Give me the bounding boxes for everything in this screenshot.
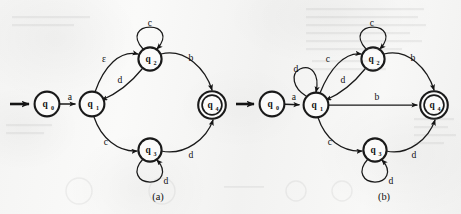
edge-label-b-q2-q1: d xyxy=(341,74,346,85)
edge-label-b-q3-self: d xyxy=(389,175,394,186)
edge-label-b-q1-q2: c xyxy=(326,53,330,64)
state-sub-b-q0: 0 xyxy=(276,105,279,111)
edge-label-b-q3-q4: d xyxy=(412,149,417,160)
state-label-b-q1: q xyxy=(311,100,317,110)
edge-label-b-q0-q1: a xyxy=(292,91,297,102)
edge-label-b-q1-self: d xyxy=(294,63,299,74)
state-label-b-q2: q xyxy=(368,54,374,64)
automata-figure: q 0 q 1 q 2 q 3 q 4 a ε d c b c xyxy=(0,0,461,214)
edge-label-b-q1-q3: c xyxy=(328,136,332,147)
edge-label-b-q1-q4: b xyxy=(375,91,380,102)
edge-b-q2-self xyxy=(360,27,386,49)
state-node-b-q4-accepting: q 4 xyxy=(420,91,448,119)
state-sub-b-q3: 3 xyxy=(378,151,381,157)
state-sub-b-q4: 4 xyxy=(437,106,440,112)
edge-label-b-q2-q4: b xyxy=(411,52,416,63)
state-node-b-q0: q 0 xyxy=(260,92,285,117)
state-label-b-q4: q xyxy=(429,100,435,110)
edge-b-q2-q1 xyxy=(326,69,365,100)
edge-label-b-q2-self: c xyxy=(370,17,374,28)
caption-b: (b) xyxy=(378,191,390,203)
edge-b-q2-q4 xyxy=(384,53,434,90)
edge-b-q3-q4 xyxy=(386,120,435,152)
diagram-b: q 0 q 1 q 2 q 3 q 4 a d c d c b xyxy=(0,0,461,214)
state-sub-b-q1: 1 xyxy=(320,106,323,112)
state-label-b-q3: q xyxy=(370,145,376,155)
state-label-b-q0: q xyxy=(267,99,273,109)
state-node-b-q3: q 3 xyxy=(363,138,386,161)
state-node-b-q2: q 2 xyxy=(361,47,384,70)
state-sub-b-q2: 2 xyxy=(376,60,379,66)
edge-b-q1-q3 xyxy=(318,118,362,152)
state-node-b-q1: q 1 xyxy=(304,93,329,118)
